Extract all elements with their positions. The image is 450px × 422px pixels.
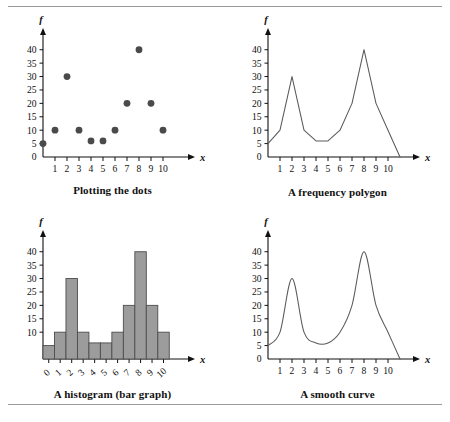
y-tick-label: 0 bbox=[32, 151, 37, 162]
x-tick-label: 7 bbox=[121, 367, 132, 379]
x-axis-arrowhead bbox=[413, 154, 420, 160]
frequency-polygon-canvas: fx051015202530354012345678910 bbox=[225, 14, 450, 189]
x-tick-label: 4 bbox=[314, 163, 319, 174]
x-tick-label: 3 bbox=[75, 367, 86, 379]
caption-smooth-curve: A smooth curve bbox=[225, 388, 450, 400]
histogram-bar bbox=[66, 279, 77, 359]
x-axis-arrowhead bbox=[188, 356, 195, 362]
x-axis-label-x: x bbox=[424, 152, 430, 163]
caption-frequency-polygon: A frequency polygon bbox=[225, 186, 450, 198]
data-point bbox=[100, 138, 107, 145]
y-tick-label: 10 bbox=[27, 327, 37, 338]
x-tick-label: 5 bbox=[98, 367, 109, 379]
y-tick-label: 0 bbox=[257, 151, 262, 162]
histogram-bars bbox=[43, 252, 169, 359]
data-point bbox=[124, 100, 131, 107]
y-tick-label: 35 bbox=[252, 260, 262, 271]
data-point bbox=[88, 138, 95, 145]
x-tick-label: 1 bbox=[52, 367, 63, 379]
x-tick-label: 3 bbox=[302, 365, 307, 376]
x-tick-label: 6 bbox=[113, 163, 118, 174]
y-tick-label: 40 bbox=[27, 246, 37, 257]
x-axis-label-x: x bbox=[199, 354, 205, 365]
y-tick-label: 20 bbox=[27, 300, 37, 311]
x-tick-label: 8 bbox=[133, 367, 144, 379]
x-tick-label: 10 bbox=[383, 365, 393, 376]
x-tick-label: 4 bbox=[87, 367, 98, 379]
y-axis-arrowhead bbox=[40, 28, 46, 35]
y-axis-label-f: f bbox=[264, 216, 269, 227]
top-divider-rule bbox=[8, 6, 442, 7]
data-point bbox=[160, 127, 167, 134]
y-tick-label: 10 bbox=[27, 125, 37, 136]
y-tick-label: 20 bbox=[252, 98, 262, 109]
x-tick-label: 10 bbox=[158, 163, 168, 174]
x-tick-label: 8 bbox=[362, 365, 367, 376]
x-tick-label: 8 bbox=[362, 163, 367, 174]
caption-histogram: A histogram (bar graph) bbox=[0, 388, 225, 400]
y-axis-label-f: f bbox=[264, 14, 269, 25]
x-tick-label: 2 bbox=[290, 365, 295, 376]
x-tick-label: 9 bbox=[374, 365, 379, 376]
x-tick-label: 6 bbox=[110, 367, 121, 379]
x-tick-label: 5 bbox=[326, 365, 331, 376]
y-axis-arrowhead bbox=[40, 230, 46, 237]
x-tick-label: 4 bbox=[314, 365, 319, 376]
histogram-bar bbox=[89, 343, 100, 359]
scatter-points bbox=[40, 46, 167, 147]
x-tick-label: 9 bbox=[374, 163, 379, 174]
y-axis-arrowhead bbox=[265, 230, 271, 237]
data-point bbox=[136, 46, 143, 53]
y-tick-label: 35 bbox=[27, 58, 37, 69]
y-tick-label: 35 bbox=[27, 260, 37, 271]
x-tick-label: 9 bbox=[149, 163, 154, 174]
x-axis-arrowhead bbox=[413, 356, 420, 362]
x-tick-label: 6 bbox=[338, 365, 343, 376]
x-tick-label: 4 bbox=[89, 163, 94, 174]
x-tick-label: 1 bbox=[278, 365, 283, 376]
y-tick-label: 30 bbox=[252, 273, 262, 284]
y-tick-label: 40 bbox=[252, 44, 262, 55]
x-tick-label: 2 bbox=[64, 367, 75, 379]
y-tick-label: 30 bbox=[27, 71, 37, 82]
smooth-curve-line bbox=[268, 252, 400, 359]
y-tick-label: 25 bbox=[27, 286, 37, 297]
y-tick-label: 5 bbox=[32, 138, 37, 149]
y-tick-label: 15 bbox=[252, 313, 262, 324]
x-tick-label: 5 bbox=[326, 163, 331, 174]
y-tick-label: 30 bbox=[27, 273, 37, 284]
scatter-plot-canvas: fx051015202530354012345678910 bbox=[0, 14, 225, 189]
y-axis-arrowhead bbox=[265, 28, 271, 35]
panel-plotting-the-dots: fx051015202530354012345678910 Plotting t… bbox=[0, 14, 225, 212]
figure-sheet: fx051015202530354012345678910 Plotting t… bbox=[0, 0, 450, 422]
y-tick-label: 30 bbox=[252, 71, 262, 82]
data-point bbox=[52, 127, 59, 134]
x-tick-label: 2 bbox=[65, 163, 70, 174]
data-point bbox=[112, 127, 119, 134]
y-tick-label: 25 bbox=[27, 84, 37, 95]
y-tick-label: 0 bbox=[257, 353, 262, 364]
histogram-bar bbox=[146, 305, 157, 359]
y-tick-label: 10 bbox=[252, 125, 262, 136]
x-tick-label: 8 bbox=[137, 163, 142, 174]
histogram-bar bbox=[54, 332, 65, 359]
y-tick-label: 15 bbox=[27, 111, 37, 122]
data-point bbox=[40, 140, 47, 147]
x-axis-label-x: x bbox=[199, 152, 205, 163]
y-tick-label: 40 bbox=[27, 44, 37, 55]
x-tick-label: 1 bbox=[53, 163, 58, 174]
histogram-bar bbox=[112, 332, 123, 359]
x-tick-label: 3 bbox=[302, 163, 307, 174]
x-axis-arrowhead bbox=[188, 154, 195, 160]
x-tick-label: 6 bbox=[338, 163, 343, 174]
data-point bbox=[64, 73, 71, 80]
histogram-canvas: fx10152025303540012345678910 bbox=[0, 216, 225, 391]
histogram-bar bbox=[77, 332, 88, 359]
histogram-bar bbox=[158, 332, 169, 359]
y-tick-label: 10 bbox=[252, 327, 262, 338]
x-tick-label: 10 bbox=[383, 163, 393, 174]
x-tick-label: 10 bbox=[154, 365, 169, 380]
smooth-curve-canvas: fx051015202530354012345678910 bbox=[225, 216, 450, 391]
y-tick-label: 15 bbox=[252, 111, 262, 122]
y-tick-label: 35 bbox=[252, 58, 262, 69]
